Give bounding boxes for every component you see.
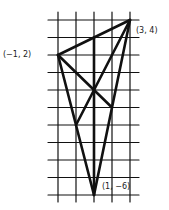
segment: [58, 55, 112, 108]
label-point-a: (−1, 2): [3, 50, 31, 59]
label-point-b: (3, 4): [136, 26, 158, 35]
triangle-grid-diagram: (−1, 2) (3, 4) (1, −6): [0, 0, 169, 210]
label-point-c: (1, −6): [102, 182, 130, 191]
